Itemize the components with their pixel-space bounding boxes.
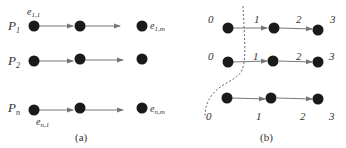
event-node	[222, 93, 233, 104]
event-node	[75, 103, 86, 114]
event-label-en1: en,1	[36, 116, 49, 129]
event-node	[313, 57, 324, 68]
process-label-p2: P2	[7, 53, 20, 70]
event-node	[75, 54, 86, 65]
clock-label: 1	[253, 50, 259, 62]
caption-a: (a)	[75, 131, 88, 144]
clock-label: 0	[208, 50, 214, 62]
panel-a: P1 e1,1 e1,m P2 Pn en,1 en,	[7, 6, 165, 144]
timeline-row-1: 0 1 2 3	[208, 13, 336, 36]
process-label-p1: P1	[7, 18, 20, 35]
panel-b: 0 1 2 3 0 1 2 3 0 1 2 3	[205, 6, 336, 144]
event-node	[269, 23, 280, 34]
event-node	[137, 54, 148, 65]
process-row-p2: P2	[7, 53, 148, 70]
event-label-enm: en,m	[150, 103, 165, 116]
event-node	[137, 103, 148, 114]
event-node	[29, 56, 40, 67]
event-node	[223, 57, 234, 68]
clock-label: 1	[256, 110, 262, 122]
event-node	[137, 21, 148, 32]
process-label-pn: Pn	[7, 100, 20, 117]
event-node	[29, 105, 40, 116]
clock-label: 0	[206, 110, 212, 122]
process-row-pn: Pn en,1 en,m	[7, 100, 165, 129]
clock-label: 2	[296, 50, 302, 62]
clock-label: 3	[328, 50, 335, 62]
clock-label: 2	[296, 13, 302, 25]
event-node	[29, 21, 40, 32]
timeline-row-2: 0 1 2 3	[208, 50, 335, 68]
event-label-e1m: e1,m	[150, 20, 165, 33]
event-node	[75, 21, 86, 32]
diagram-canvas: P1 e1,1 e1,m P2 Pn en,1 en,	[0, 0, 346, 148]
edge	[232, 98, 265, 99]
process-row-p1: P1 e1,1 e1,m	[7, 6, 165, 35]
event-node	[268, 56, 279, 67]
event-node	[223, 23, 234, 34]
event-node	[313, 94, 324, 105]
edge	[233, 61, 267, 62]
event-node	[266, 93, 277, 104]
clock-label: 3	[328, 110, 335, 122]
event-node	[313, 25, 324, 36]
clock-label: 0	[208, 13, 214, 25]
timeline-row-3: 0 1 2 3	[206, 93, 335, 123]
clock-label: 1	[254, 13, 260, 25]
edge	[279, 28, 312, 29]
caption-b: (b)	[260, 131, 273, 144]
edge	[277, 98, 312, 99]
event-label-e11: e1,1	[27, 6, 40, 19]
clock-label: 2	[300, 110, 306, 122]
clock-label: 3	[329, 13, 336, 25]
